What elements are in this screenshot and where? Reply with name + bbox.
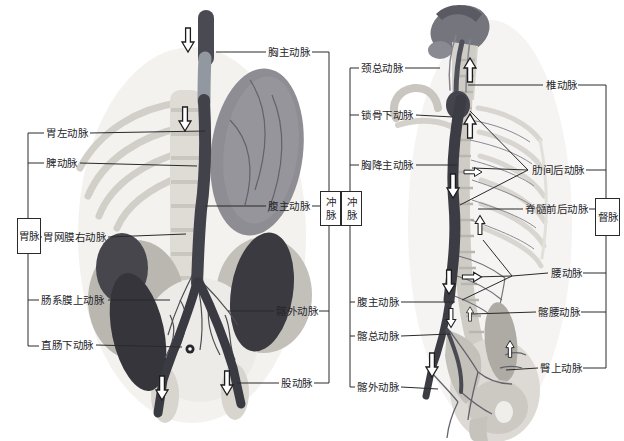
anatomy-diagram: 胃左动脉 脾动脉 胃网膜右动脉 肠系膜上动脉 直肠下动脉 胸主动脉 腹主动脉 髂… <box>0 0 624 441</box>
du-meridian-box: 督脉 <box>595 198 620 236</box>
common-carotid-artery-label: 颈总动脉 <box>361 62 403 74</box>
stomach-meridian-box: 胃脉 <box>17 218 41 254</box>
splenic-artery-label: 脾动脉 <box>46 157 78 169</box>
external-iliac-artery-right-fig-label: 髂外动脉 <box>357 381 399 393</box>
common-iliac-artery-label: 髂总动脉 <box>357 330 399 342</box>
left-gastric-artery-label: 胃左动脉 <box>46 127 88 139</box>
spinal-arteries-label: 脊髓前后动脉 <box>525 203 588 215</box>
femoral-artery-label: 股动脉 <box>281 377 313 389</box>
left-anatomy-illustration <box>78 18 313 423</box>
thoracic-aorta-label: 胸主动脉 <box>268 46 310 58</box>
abdominal-aorta-right-fig-label: 腹主动脉 <box>357 296 399 308</box>
superior-gluteal-artery-label: 臀上动脉 <box>540 362 582 374</box>
superior-mesenteric-artery-label: 肠系膜上动脉 <box>41 294 104 306</box>
external-iliac-artery-label: 髂外动脉 <box>276 305 318 317</box>
descending-thoracic-aorta-label: 胸降主动脉 <box>361 159 414 171</box>
right-gastroepiploic-artery-label: 胃网膜右动脉 <box>43 231 106 243</box>
chong-meridian-box-left: 冲脉 <box>320 191 341 226</box>
vertebral-artery-label: 椎动脉 <box>546 79 578 91</box>
iliolumbar-artery-label: 髂腰动脉 <box>538 306 580 318</box>
posterior-intercostal-arteries-label: 肋间后动脉 <box>532 164 585 176</box>
abdominal-aorta-label: 腹主动脉 <box>268 200 310 212</box>
rectum-marker-center <box>188 347 192 351</box>
lumbar-arteries-label: 腰动脉 <box>551 267 583 279</box>
inferior-rectal-artery-label: 直肠下动脉 <box>41 339 94 351</box>
diagram-canvas <box>0 0 624 441</box>
chong-meridian-box-right: 冲脉 <box>341 191 362 226</box>
subclavian-artery-label: 锁骨下动脉 <box>361 109 414 121</box>
